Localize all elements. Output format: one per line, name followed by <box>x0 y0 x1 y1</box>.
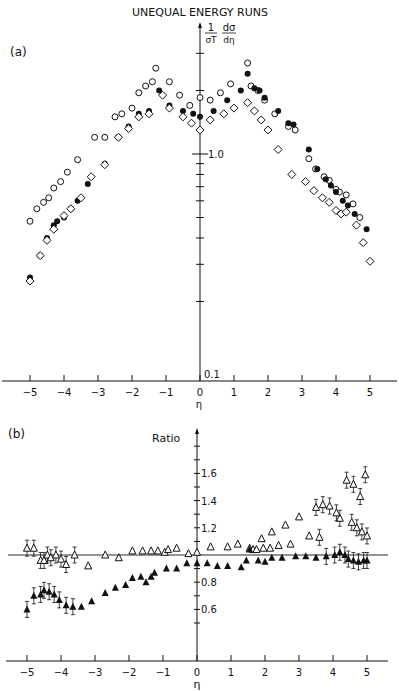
data-point <box>112 114 118 120</box>
data-point <box>207 543 214 550</box>
data-point <box>352 211 358 217</box>
data-point <box>306 156 312 162</box>
panel-b-xlabel: η <box>194 678 201 691</box>
data-point <box>85 562 92 569</box>
xtick-label: −5 <box>20 667 35 678</box>
xtick-label: −5 <box>23 387 38 398</box>
data-point <box>258 535 265 542</box>
data-point <box>352 221 360 229</box>
data-point <box>153 65 159 71</box>
data-point <box>36 252 44 260</box>
xtick-label: −1 <box>156 667 171 678</box>
data-point <box>75 157 81 163</box>
data-point <box>154 547 161 554</box>
data-point <box>149 79 155 85</box>
data-point <box>350 556 357 563</box>
data-point <box>333 189 339 195</box>
xtick-label: 5 <box>364 667 370 678</box>
data-point <box>362 471 369 478</box>
xtick-label: 4 <box>333 387 339 398</box>
data-point <box>228 81 234 87</box>
data-point <box>264 126 272 134</box>
data-point <box>151 569 158 576</box>
data-point <box>291 121 297 127</box>
xtick-label: −2 <box>122 667 137 678</box>
data-point <box>288 170 296 178</box>
ytick-label: 1.4 <box>201 496 217 507</box>
data-point <box>306 532 313 539</box>
data-point <box>257 116 265 124</box>
ylabel-den2: dη <box>223 35 234 45</box>
data-point <box>350 480 357 487</box>
data-point <box>204 559 211 566</box>
data-point <box>364 226 370 232</box>
ytick-1.0: 1.0 <box>208 149 224 160</box>
data-point <box>238 563 245 570</box>
data-point <box>183 559 190 566</box>
data-point <box>129 105 135 111</box>
data-point <box>357 493 364 500</box>
data-point <box>101 161 109 169</box>
data-point <box>206 116 214 124</box>
data-point <box>185 550 192 557</box>
data-point <box>217 90 223 96</box>
data-point <box>234 540 241 547</box>
data-point <box>46 195 52 201</box>
data-point <box>359 239 367 247</box>
xtick-label: −4 <box>54 667 69 678</box>
data-point <box>268 528 275 535</box>
data-point <box>301 178 309 186</box>
data-point <box>292 552 299 559</box>
data-point <box>88 597 95 604</box>
data-point <box>71 551 78 558</box>
xtick-label: 0 <box>194 667 200 678</box>
panel-a: (a) 1 σT dσ dη 1.0 0.1 −5−4−3−2−1012345 … <box>2 22 397 410</box>
data-point <box>63 601 70 608</box>
data-point <box>224 97 230 103</box>
data-point <box>325 198 333 206</box>
data-point <box>196 126 204 134</box>
data-point <box>92 134 98 140</box>
data-point <box>350 201 356 207</box>
ytick-label: 1.2 <box>201 523 217 534</box>
data-point <box>220 110 228 118</box>
data-point <box>318 194 326 202</box>
data-point <box>310 187 318 195</box>
data-point <box>366 257 374 265</box>
data-point <box>166 79 172 85</box>
data-point <box>41 199 47 205</box>
panel-a-ylabel: 1 σT dσ dη <box>205 22 236 45</box>
data-point <box>345 203 351 209</box>
data-point <box>238 87 244 93</box>
data-point <box>87 173 95 181</box>
data-point <box>243 556 250 563</box>
xtick-label: 1 <box>231 387 237 398</box>
data-point <box>262 95 268 101</box>
data-point <box>343 192 349 198</box>
ylabel-den: σT <box>205 35 217 45</box>
data-point <box>306 147 312 153</box>
xtick-label: −4 <box>57 387 72 398</box>
data-point <box>323 176 329 182</box>
data-point <box>343 476 350 483</box>
data-point <box>46 588 53 595</box>
data-point <box>348 518 355 525</box>
data-point <box>177 92 183 98</box>
data-point <box>313 503 320 510</box>
data-point <box>302 552 309 559</box>
data-point <box>122 581 129 588</box>
data-point <box>129 547 136 554</box>
data-point <box>323 552 330 559</box>
xtick-label: 0 <box>197 387 203 398</box>
data-point <box>24 544 31 551</box>
data-point <box>136 90 142 96</box>
panel-a-label: (a) <box>10 45 27 59</box>
data-point <box>137 573 144 580</box>
data-point <box>314 166 320 172</box>
xtick-label: 2 <box>262 667 268 678</box>
data-point <box>52 551 59 558</box>
data-point <box>285 120 291 126</box>
data-point <box>139 547 146 554</box>
data-point <box>78 603 85 610</box>
data-point <box>275 541 282 548</box>
